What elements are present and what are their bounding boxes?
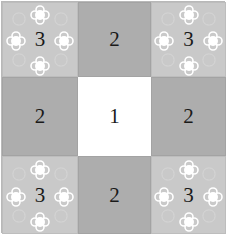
flower-icon (30, 56, 50, 76)
flower-icon (179, 56, 199, 76)
flower-icon (179, 5, 199, 25)
cell-label: 1 (109, 104, 120, 129)
cell-middle-left: 2 (2, 77, 78, 156)
cell-label: 2 (109, 27, 120, 52)
flower-icon (203, 187, 223, 207)
cell-bottom-right: 3 (151, 156, 226, 234)
flower-icon (179, 212, 199, 232)
flower-icon (6, 187, 26, 207)
flower-icon (30, 160, 50, 180)
cell-label: 3 (183, 183, 194, 208)
cell-label: 2 (35, 104, 46, 129)
cell-top-right: 3 (151, 2, 226, 77)
cell-middle-right: 2 (151, 77, 226, 156)
flower-icon (6, 31, 26, 51)
cell-label: 3 (35, 27, 46, 52)
cell-label: 3 (35, 183, 46, 208)
cell-label: 3 (183, 27, 194, 52)
flower-icon (30, 5, 50, 25)
number-grid: 3 2 3 2 1 2 3 2 3 (1, 1, 225, 233)
flower-icon (154, 31, 174, 51)
flower-icon (30, 212, 50, 232)
flower-icon (154, 187, 174, 207)
cell-label: 2 (183, 104, 194, 129)
cell-bottom-left: 3 (2, 156, 78, 234)
flower-icon (54, 31, 74, 51)
cell-bottom-middle: 2 (78, 156, 151, 234)
flower-icon (54, 187, 74, 207)
flower-icon (203, 31, 223, 51)
cell-top-middle: 2 (78, 2, 151, 77)
cell-label: 2 (109, 183, 120, 208)
flower-icon (179, 160, 199, 180)
cell-center: 1 (78, 77, 151, 156)
cell-top-left: 3 (2, 2, 78, 77)
